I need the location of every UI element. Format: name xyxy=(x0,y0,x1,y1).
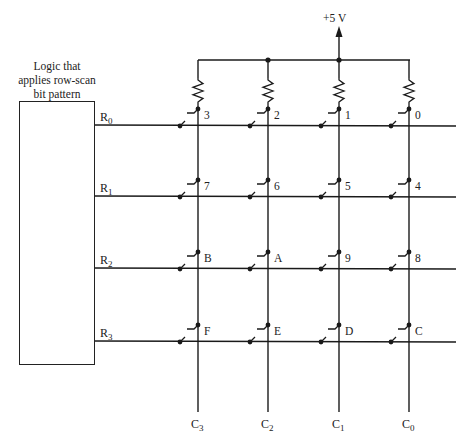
row-labels: R0 R1 R2 R3 xyxy=(100,110,113,342)
resistor-icon xyxy=(334,78,344,106)
column-label-c3: C3 xyxy=(191,417,204,433)
key-label-B: B xyxy=(204,252,212,264)
resistor-icon xyxy=(193,78,203,106)
row-line-r1 xyxy=(95,196,456,197)
key-label-E: E xyxy=(274,325,281,337)
row-line-r3 xyxy=(95,341,456,342)
supply-label: +5 V xyxy=(323,12,347,24)
column-label-c1: C1 xyxy=(332,417,345,433)
resistor-icon xyxy=(404,78,414,106)
column-labels: C3 C2 C1 C0 xyxy=(191,417,415,433)
key-label-0: 0 xyxy=(415,109,421,121)
column-label-c0: C0 xyxy=(402,417,415,433)
row-label-r0: R0 xyxy=(100,110,113,126)
keypad-matrix-diagram: +5 V 32107654BA98FEDC R0 R1 R2 R3 C3 C2 … xyxy=(0,0,472,442)
row-label-r3: R3 xyxy=(100,326,113,342)
key-label-C: C xyxy=(415,325,423,337)
key-label-D: D xyxy=(345,325,353,337)
key-label-5: 5 xyxy=(345,180,351,192)
key-label-9: 9 xyxy=(345,252,351,264)
key-label-8: 8 xyxy=(415,252,421,264)
row-line-r0 xyxy=(95,125,456,126)
supply-bus xyxy=(198,34,410,60)
row-label-r2: R2 xyxy=(100,253,113,269)
matrix-group: 32107654BA98FEDC xyxy=(95,60,456,412)
key-label-6: 6 xyxy=(274,180,280,192)
key-label-7: 7 xyxy=(204,180,210,192)
key-label-1: 1 xyxy=(345,109,351,121)
key-label-F: F xyxy=(204,325,210,337)
row-line-r2 xyxy=(95,268,456,269)
resistor-icon xyxy=(263,78,273,106)
column-label-c2: C2 xyxy=(261,417,274,433)
logic-block xyxy=(20,102,95,365)
key-label-4: 4 xyxy=(415,180,421,192)
key-label-2: 2 xyxy=(274,109,280,121)
arrow-up-icon xyxy=(336,26,343,37)
key-label-A: A xyxy=(274,252,283,264)
row-label-r1: R1 xyxy=(100,181,113,197)
key-label-3: 3 xyxy=(204,109,210,121)
